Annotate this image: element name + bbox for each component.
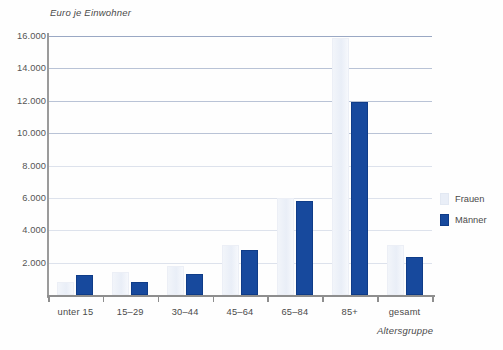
bar-group [103, 36, 158, 295]
bar-maenner[interactable] [76, 275, 93, 295]
y-tick-label: 4.000 [0, 225, 46, 235]
y-tick-label: 2.000 [0, 258, 46, 268]
x-tick-mark [48, 295, 50, 302]
bar-frauen[interactable] [57, 282, 74, 295]
y-axis-tick-labels: 2.0004.0006.0008.00010.00012.00014.00016… [0, 0, 46, 350]
bar-group [48, 36, 103, 295]
bar-frauen[interactable] [332, 38, 349, 295]
y-tick-label: 6.000 [0, 193, 46, 203]
bar-frauen[interactable] [387, 245, 404, 296]
x-tick-label: 65–84 [281, 307, 308, 317]
x-tick-mark [432, 295, 434, 302]
legend-label: Männer [455, 215, 487, 225]
bar-maenner[interactable] [406, 257, 423, 295]
bar-frauen[interactable] [112, 272, 129, 295]
legend-swatch-icon [440, 214, 449, 226]
bar-maenner[interactable] [351, 102, 368, 295]
bar-group [158, 36, 213, 295]
chart-figure: Euro je Einwohner 2.0004.0006.0008.00010… [0, 0, 503, 350]
y-tick-label: 14.000 [0, 63, 46, 73]
legend-swatch-icon [440, 193, 449, 205]
x-tick-mark [213, 295, 215, 302]
x-tick-label: unter 15 [58, 307, 94, 317]
bar-frauen[interactable] [277, 198, 294, 295]
legend-label: Frauen [455, 194, 484, 204]
x-tick-label: 30–44 [172, 307, 199, 317]
x-tick-label: gesamt [389, 307, 421, 317]
x-axis-title: Altersgruppe [377, 325, 433, 336]
x-tick-label: 85+ [342, 307, 358, 317]
y-axis-title: Euro je Einwohner [50, 7, 131, 18]
x-tick-mark [322, 295, 324, 302]
bars-container [48, 36, 432, 295]
y-tick-label: 10.000 [0, 128, 46, 138]
x-tick-label: 15–29 [117, 307, 144, 317]
bar-group [377, 36, 432, 295]
bar-maenner[interactable] [186, 274, 203, 295]
y-tick-label: 12.000 [0, 96, 46, 106]
y-tick-label: 16.000 [0, 31, 46, 41]
x-tick-mark [267, 295, 269, 302]
y-tick-label: 8.000 [0, 161, 46, 171]
x-tick-mark [158, 295, 160, 302]
bar-maenner[interactable] [241, 250, 258, 295]
x-tick-mark [377, 295, 379, 302]
bar-group [322, 36, 377, 295]
bar-group [213, 36, 268, 295]
x-tick-label: 45–64 [227, 307, 254, 317]
chart-legend: FrauenMänner [440, 193, 500, 235]
x-tick-mark [103, 295, 105, 302]
bar-maenner[interactable] [296, 201, 313, 295]
bar-maenner[interactable] [131, 282, 148, 295]
bar-frauen[interactable] [167, 266, 184, 295]
bar-frauen[interactable] [222, 245, 239, 296]
legend-item[interactable]: Frauen [440, 193, 500, 205]
legend-item[interactable]: Männer [440, 214, 500, 226]
bar-group [267, 36, 322, 295]
